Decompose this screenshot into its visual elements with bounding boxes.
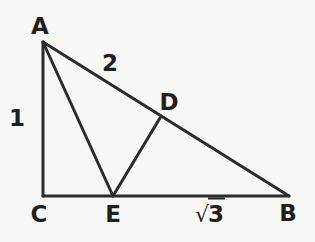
segment-ED bbox=[113, 118, 160, 196]
vertex-label-E: E bbox=[105, 203, 121, 226]
radical-sign-icon: √ bbox=[195, 202, 209, 227]
side-length-label-ac: 1 bbox=[9, 107, 25, 130]
side-length-label-cb: √3 bbox=[195, 203, 225, 226]
vertex-label-A: A bbox=[31, 15, 49, 38]
vertex-label-B: B bbox=[279, 202, 297, 225]
geometry-figure: A B C D E 1 2 √3 bbox=[0, 0, 315, 242]
radicand-value: 3 bbox=[208, 198, 225, 227]
vertex-label-D: D bbox=[159, 91, 178, 114]
segment-group bbox=[43, 42, 289, 196]
vertex-label-C: C bbox=[31, 203, 48, 226]
segment-AB bbox=[43, 42, 289, 196]
side-length-label-ab: 2 bbox=[102, 52, 118, 75]
